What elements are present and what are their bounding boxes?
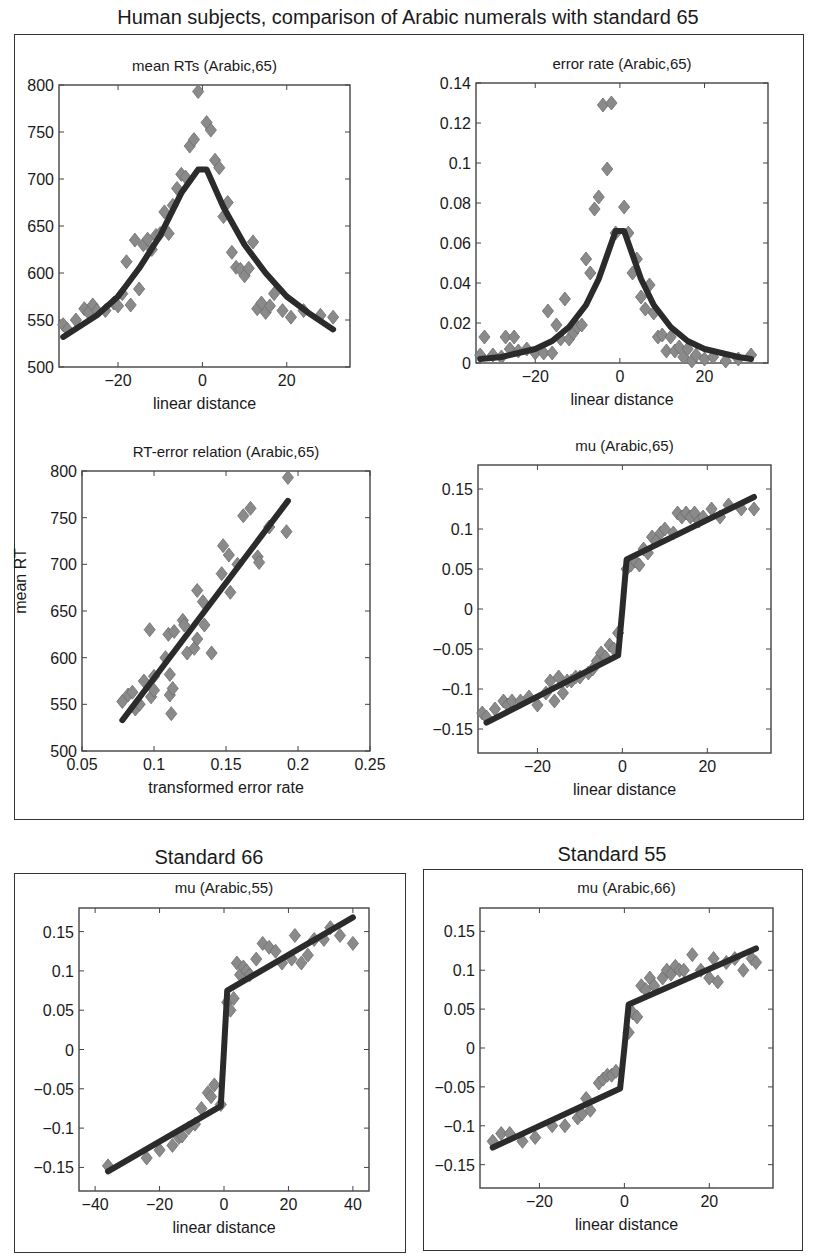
x-tick-label: 20 [700, 1193, 718, 1210]
y-tick-label: 0.15 [444, 923, 475, 940]
y-tick-label: −0.1 [443, 1118, 475, 1135]
y-tick-label: 0 [466, 1040, 475, 1057]
x-tick-label: −20 [526, 1193, 553, 1210]
x-axis-label: linear distance [575, 1216, 678, 1233]
y-tick-label: 0.05 [444, 1001, 475, 1018]
y-tick-label: −0.05 [435, 1079, 476, 1096]
y-tick-label: 0.1 [453, 962, 475, 979]
y-tick-label: −0.15 [435, 1157, 476, 1174]
chart-title: mu (Arabic,66) [577, 879, 675, 896]
chart-mu-66: mu (Arabic,66)−20020−0.15−0.1−0.0500.050… [0, 0, 816, 1260]
x-tick-label: 0 [620, 1193, 629, 1210]
